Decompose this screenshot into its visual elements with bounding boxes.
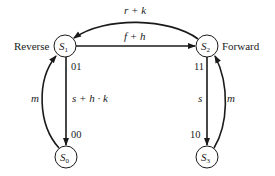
edge-label-r-plus-k: r + k [124, 4, 147, 16]
forward-label: Forward [222, 40, 260, 52]
edge-label-m-left: m [31, 92, 39, 104]
node-s1: S1 [54, 35, 76, 57]
edge-label-m-right: m [227, 92, 235, 104]
code-s1: 01 [71, 61, 82, 72]
node-s2: S2 [196, 35, 218, 57]
reverse-label: Reverse [14, 40, 50, 52]
edge-label-s-plus-h-dot-k: s + h · k [72, 92, 109, 104]
code-s3: 10 [190, 129, 201, 140]
edge-label-s: s [198, 92, 202, 104]
node-s0: S0 [55, 146, 77, 168]
code-s0: 00 [71, 129, 82, 140]
state-diagram: S1 S2 S0 S3 Reverse Forward 01 11 00 10 … [0, 0, 275, 176]
edge-s3-to-s2 [214, 56, 225, 148]
node-s3: S3 [196, 146, 218, 168]
edge-label-f-plus-h: f + h [124, 30, 146, 42]
edge-s0-to-s1 [42, 56, 59, 148]
code-s2: 11 [194, 61, 204, 72]
